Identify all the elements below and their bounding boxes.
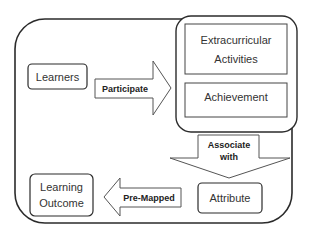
participate-label: Participate (102, 84, 148, 94)
node-extracurricular-activities: Extracurricular Activities (185, 24, 287, 74)
node-learners: Learners (28, 64, 87, 89)
associate-label-line2: with (219, 152, 238, 162)
node-achievement: Achievement (185, 83, 287, 117)
extracurricular-label-line1: Extracurricular (201, 34, 272, 46)
extracurricular-label-line2: Activities (214, 53, 258, 65)
associate-label-line1: Associate (208, 140, 251, 150)
learners-label: Learners (36, 71, 80, 83)
premapped-label: Pre-Mapped (123, 193, 175, 203)
learning-outcome-label-line1: Learning (40, 181, 83, 193)
learning-outcome-label-line2: Outcome (39, 197, 84, 209)
attribute-label: Attribute (210, 192, 251, 204)
node-attribute: Attribute (198, 183, 262, 213)
achievement-label: Achievement (204, 91, 268, 103)
diagram-canvas: Extracurricular Activities Achievement L… (0, 0, 310, 236)
node-learning-outcome: Learning Outcome (30, 174, 93, 216)
